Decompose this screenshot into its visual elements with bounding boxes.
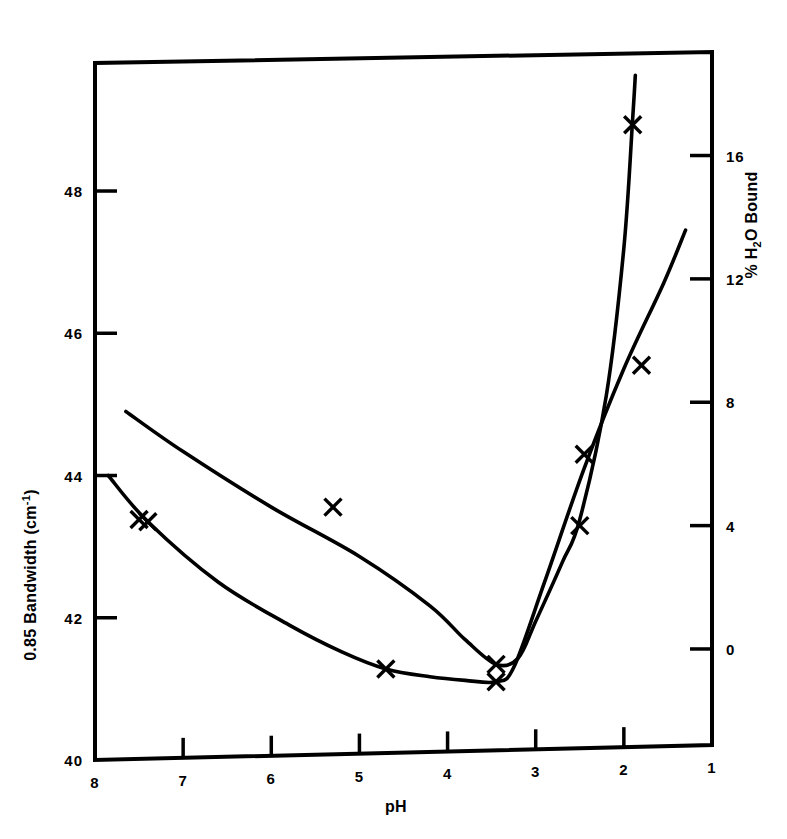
data-point-x-marker [324,499,341,516]
x-tick-label: 8 [90,774,99,791]
x-tick-label: 2 [619,761,628,778]
y-right-tick-label: 0 [726,641,735,658]
y-right-axis-title: % H2O Bound [743,171,763,278]
x-tick-label: 1 [707,759,716,776]
y-left-tick-label: 48 [64,183,83,200]
y-left-axis-ticks [95,191,117,618]
x-tick-label: 4 [443,765,452,782]
x-tick-label: 3 [531,763,540,780]
y-right-axis-title-label: % H2O Bound [743,171,763,278]
y-left-tick-label: 46 [64,325,83,342]
y-left-axis-title: 0.85 Bandwidth (cm-1) [20,489,39,661]
x-tick-label: 6 [267,770,276,787]
y-left-title-suffix: ) [22,489,39,495]
y-left-axis-title-label: 0.85 Bandwidth (cm-1) [20,489,39,661]
data-curve-h2o-bound [126,75,635,665]
x-axis-title: pH [385,798,407,815]
y-left-title-superscript: -1 [20,495,32,505]
x-tick-label: 5 [355,768,364,785]
chart-figure: 87654321 4042444648 0481216 pH 0.85 Band… [0,0,787,839]
y-right-tick-label: 16 [726,148,745,165]
data-curves [108,75,685,682]
y-right-tick-label: 4 [726,518,735,535]
data-curve-bandwidth [108,230,685,682]
y-right-axis-ticks [690,156,712,649]
y-left-axis-tick-labels: 4042444648 [64,183,83,769]
frame-border [95,52,712,760]
y-right-tick-label: 12 [726,271,745,288]
y-left-tick-label: 40 [64,752,83,769]
y-right-title-prefix: % H [743,247,760,278]
x-axis-title-label: pH [385,798,407,815]
y-right-tick-label: 8 [726,394,735,411]
y-left-tick-label: 44 [64,468,83,485]
x-tick-label: 7 [178,772,187,789]
y-right-axis-tick-labels: 0481216 [726,148,745,658]
chart-svg: 87654321 4042444648 0481216 pH 0.85 Band… [0,0,787,839]
y-left-tick-label: 42 [64,610,83,627]
x-axis-tick-labels: 87654321 [90,759,716,791]
y-left-title-prefix: 0.85 Bandwidth (cm [22,505,39,661]
data-point-markers [131,116,650,690]
data-point-x-marker [633,357,650,374]
y-right-title-suffix: O Bound [743,171,760,241]
plot-frame [95,52,712,760]
